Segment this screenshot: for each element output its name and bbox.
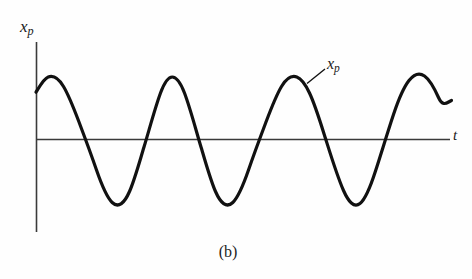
y-axis-label: xp: [20, 18, 34, 38]
curve-label-leader-line: [307, 69, 325, 84]
curve-label-xp: xp: [327, 56, 340, 75]
figure-container: xp t xp (b): [0, 0, 472, 279]
y-axis-label-main: x: [20, 17, 28, 36]
y-axis-label-subscript: p: [28, 24, 34, 38]
t-axis-label: t: [453, 128, 457, 143]
curve-label-subscript: p: [334, 62, 340, 74]
sinusoid-plot: [0, 0, 472, 279]
figure-caption: (b): [0, 244, 456, 260]
